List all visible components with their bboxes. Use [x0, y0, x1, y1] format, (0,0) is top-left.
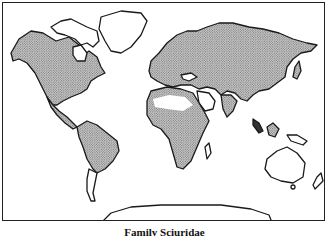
- south-america: [77, 121, 119, 173]
- india: [221, 95, 237, 117]
- sumatra: [253, 119, 263, 133]
- hudson-bay: [73, 45, 87, 61]
- antarctica: [99, 205, 273, 221]
- australia: [265, 147, 305, 183]
- madagascar: [205, 143, 211, 159]
- new-guinea: [287, 135, 307, 145]
- south-america-south: [87, 169, 97, 201]
- tasmania: [291, 185, 295, 189]
- map-caption: Family Sciuridae: [0, 226, 329, 236]
- borneo: [267, 123, 279, 137]
- world-map: [2, 2, 325, 221]
- new-zealand: [313, 173, 323, 189]
- greenland: [99, 11, 147, 53]
- japan: [293, 61, 301, 79]
- map-frame: [2, 2, 325, 221]
